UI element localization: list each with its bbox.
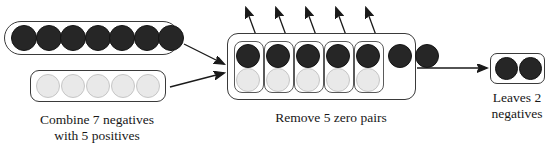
leftover-negative-chip bbox=[388, 44, 412, 68]
negative-chip bbox=[266, 44, 290, 68]
positive-chip bbox=[236, 68, 260, 92]
positive-chip bbox=[296, 68, 320, 92]
caption-combine: Combine 7 negatives with 5 positives bbox=[2, 112, 192, 143]
negative-chip bbox=[236, 44, 260, 68]
positive-chip bbox=[136, 74, 160, 98]
caption-remove: Remove 5 zero pairs bbox=[252, 110, 410, 126]
positive-chip bbox=[86, 74, 110, 98]
positive-chip bbox=[356, 68, 380, 92]
negative-chip bbox=[296, 44, 320, 68]
leftover-negative-chip bbox=[415, 44, 439, 68]
negative-chip bbox=[85, 25, 111, 51]
positive-chip bbox=[61, 74, 85, 98]
arrow-positives-to-combined bbox=[170, 73, 224, 87]
arrow-negatives-to-combined bbox=[184, 44, 224, 64]
negative-chip bbox=[36, 25, 62, 51]
caption-leaves: Leaves 2 negatives bbox=[478, 90, 556, 121]
negative-chip bbox=[109, 25, 135, 51]
positive-chip bbox=[266, 68, 290, 92]
result-negative-chip bbox=[495, 57, 518, 80]
positive-chip bbox=[326, 68, 350, 92]
negative-chip bbox=[326, 44, 350, 68]
negative-chip bbox=[60, 25, 86, 51]
negative-chip bbox=[11, 25, 37, 51]
positive-chip bbox=[111, 74, 135, 98]
result-negative-chip bbox=[519, 57, 542, 80]
negative-chip bbox=[158, 25, 184, 51]
negative-chip bbox=[134, 25, 160, 51]
positive-chip bbox=[36, 74, 60, 98]
diagram-canvas: Combine 7 negatives with 5 positives Rem… bbox=[0, 0, 556, 152]
negative-chip bbox=[356, 44, 380, 68]
